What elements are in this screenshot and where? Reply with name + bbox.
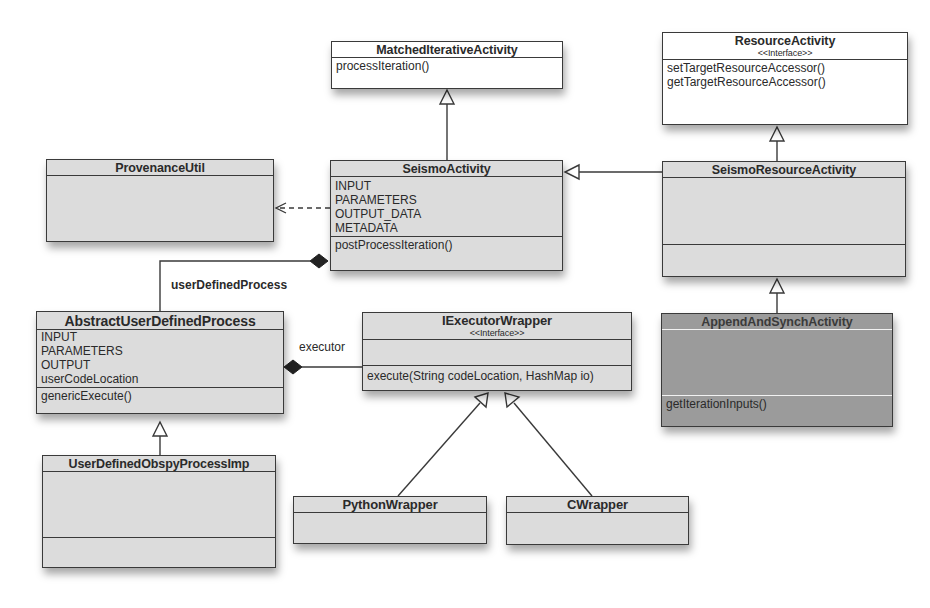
generalization-seismo-to-matched bbox=[440, 90, 454, 160]
class-provenance-util[interactable]: ProvenanceUtil bbox=[46, 159, 274, 242]
class-append-and-synch-activity[interactable]: AppendAndSynchActivity getIterationInput… bbox=[661, 313, 893, 427]
method: postProcessIteration() bbox=[335, 238, 558, 252]
class-seismo-resource-activity[interactable]: SeismoResourceActivity bbox=[662, 161, 906, 277]
realization-cwrapper-to-executor bbox=[505, 393, 592, 496]
class-header: IExecutorWrapper <<Interface>> bbox=[363, 313, 631, 340]
class-name: ProvenanceUtil bbox=[47, 160, 273, 176]
class-name: AbstractUserDefinedProcess bbox=[37, 312, 283, 330]
method: processIteration() bbox=[336, 59, 558, 73]
class-name: CWrapper bbox=[507, 497, 688, 513]
attribute: OUTPUT bbox=[41, 358, 279, 372]
method: genericExecute() bbox=[41, 389, 279, 403]
label-executor: executor bbox=[299, 340, 345, 354]
class-matched-iterative-activity[interactable]: MatchedIterativeActivity processIteratio… bbox=[331, 41, 563, 89]
attributes-section bbox=[663, 178, 905, 245]
attribute: PARAMETERS bbox=[335, 193, 558, 207]
attribute: INPUT bbox=[41, 330, 279, 344]
dependency-seismo-to-provenance bbox=[276, 203, 330, 213]
class-abstract-user-defined-process[interactable]: AbstractUserDefinedProcess INPUT PARAMET… bbox=[36, 311, 284, 414]
generalization-obspy-to-abstract bbox=[153, 422, 167, 455]
class-iexecutor-wrapper[interactable]: IExecutorWrapper <<Interface>> execute(S… bbox=[362, 312, 632, 391]
class-c-wrapper[interactable]: CWrapper bbox=[506, 496, 689, 545]
attributes-section bbox=[662, 330, 892, 396]
class-name: MatchedIterativeActivity bbox=[332, 42, 562, 58]
class-name: IExecutorWrapper bbox=[442, 313, 552, 328]
class-name: ResourceActivity bbox=[735, 34, 836, 48]
attributes-section bbox=[363, 340, 631, 366]
method: getTargetResourceAccessor() bbox=[667, 75, 903, 89]
attribute: METADATA bbox=[335, 221, 558, 235]
attributes-section bbox=[43, 472, 275, 538]
class-name: PythonWrapper bbox=[294, 497, 486, 513]
composition-abstract-executor bbox=[284, 360, 362, 374]
method: setTargetResourceAccessor() bbox=[667, 61, 903, 75]
generalization-appendsynch-to-seismoresource bbox=[770, 279, 784, 313]
class-name: UserDefinedObspyProcessImp bbox=[43, 456, 275, 472]
class-header: ResourceActivity <<Interface>> bbox=[663, 33, 907, 60]
class-user-defined-obspy-process-imp[interactable]: UserDefinedObspyProcessImp bbox=[42, 455, 276, 568]
attribute: userCodeLocation bbox=[41, 372, 279, 386]
attribute: PARAMETERS bbox=[41, 344, 279, 358]
method: execute(String codeLocation, HashMap io) bbox=[367, 369, 627, 383]
class-seismo-activity[interactable]: SeismoActivity INPUT PARAMETERS OUTPUT_D… bbox=[330, 160, 563, 271]
stereotype: <<Interface>> bbox=[665, 48, 905, 59]
attribute: INPUT bbox=[335, 179, 558, 193]
class-name: SeismoActivity bbox=[331, 161, 562, 177]
class-resource-activity[interactable]: ResourceActivity <<Interface>> setTarget… bbox=[662, 32, 908, 125]
method: getIterationInputs() bbox=[666, 397, 888, 411]
class-name: SeismoResourceActivity bbox=[663, 162, 905, 178]
class-python-wrapper[interactable]: PythonWrapper bbox=[293, 496, 487, 544]
realization-python-to-executor bbox=[398, 393, 488, 496]
generalization-seismoresource-to-seismo bbox=[565, 165, 662, 179]
label-user-defined-process: userDefinedProcess bbox=[171, 278, 287, 292]
generalization-seismoresource-to-resource bbox=[770, 127, 784, 161]
stereotype: <<Interface>> bbox=[365, 328, 629, 339]
class-name: AppendAndSynchActivity bbox=[662, 314, 892, 330]
attribute: OUTPUT_DATA bbox=[335, 207, 558, 221]
